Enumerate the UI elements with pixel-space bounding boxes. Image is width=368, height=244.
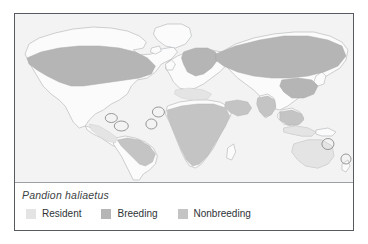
legend-swatch-nonbreeding — [178, 209, 188, 219]
world-map — [15, 14, 353, 182]
legend-item-nonbreeding: Nonbreeding — [178, 208, 251, 219]
legend-item-resident: Resident — [26, 208, 81, 219]
species-name: Pandion haliaetus — [22, 189, 353, 201]
legend-item-breeding: Breeding — [101, 208, 157, 219]
legend-row: Resident Breeding Nonbreeding — [22, 208, 353, 219]
distribution-map-figure: Pandion haliaetus Resident Breeding Nonb… — [14, 13, 354, 231]
legend-swatch-breeding — [101, 209, 111, 219]
legend-label-nonbreeding: Nonbreeding — [194, 208, 251, 219]
map-pane — [15, 14, 353, 183]
legend-swatch-resident — [26, 209, 36, 219]
legend-pane: Pandion haliaetus Resident Breeding Nonb… — [15, 183, 353, 230]
legend-label-breeding: Breeding — [117, 208, 157, 219]
legend-label-resident: Resident — [42, 208, 81, 219]
